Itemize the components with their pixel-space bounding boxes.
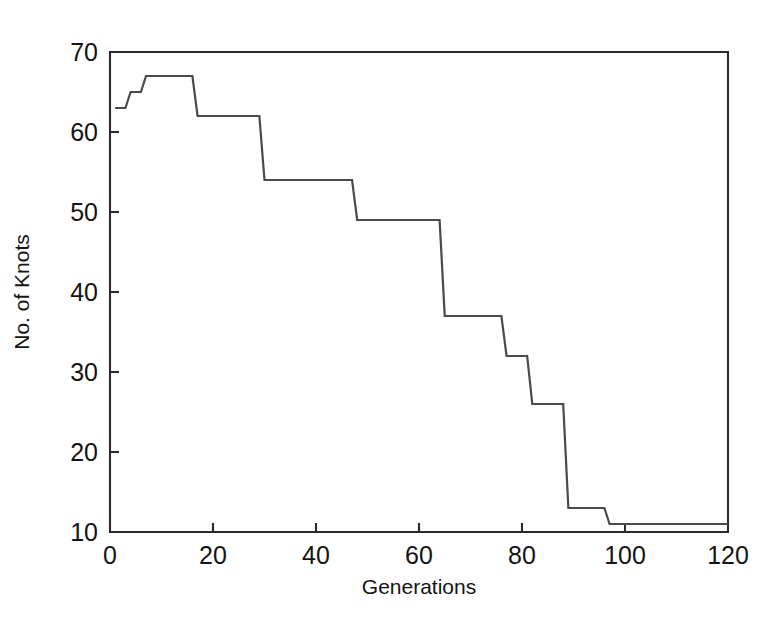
y-tick-label: 60 [40, 118, 98, 147]
y-axis-title: No. of Knots [10, 234, 34, 350]
y-axis-ticks [110, 132, 119, 452]
y-tick-label: 50 [40, 198, 98, 227]
y-tick-label: 20 [40, 438, 98, 467]
y-tick-label: 30 [40, 358, 98, 387]
axis-frame [110, 52, 728, 532]
x-axis-title: Generations [362, 575, 476, 599]
x-tick-label: 80 [508, 541, 536, 570]
x-axis-ticks [213, 523, 625, 532]
chart-figure: 10203040506070 020406080100120 Generatio… [0, 0, 771, 621]
y-tick-label: 70 [40, 38, 98, 67]
x-tick-label: 40 [302, 541, 330, 570]
plot-canvas [0, 0, 771, 621]
x-tick-label: 0 [103, 541, 117, 570]
x-tick-label: 60 [405, 541, 433, 570]
data-series-line [115, 76, 728, 524]
y-tick-label: 10 [40, 518, 98, 547]
x-tick-label: 120 [707, 541, 749, 570]
y-tick-label: 40 [40, 278, 98, 307]
x-tick-label: 100 [604, 541, 646, 570]
x-tick-label: 20 [199, 541, 227, 570]
